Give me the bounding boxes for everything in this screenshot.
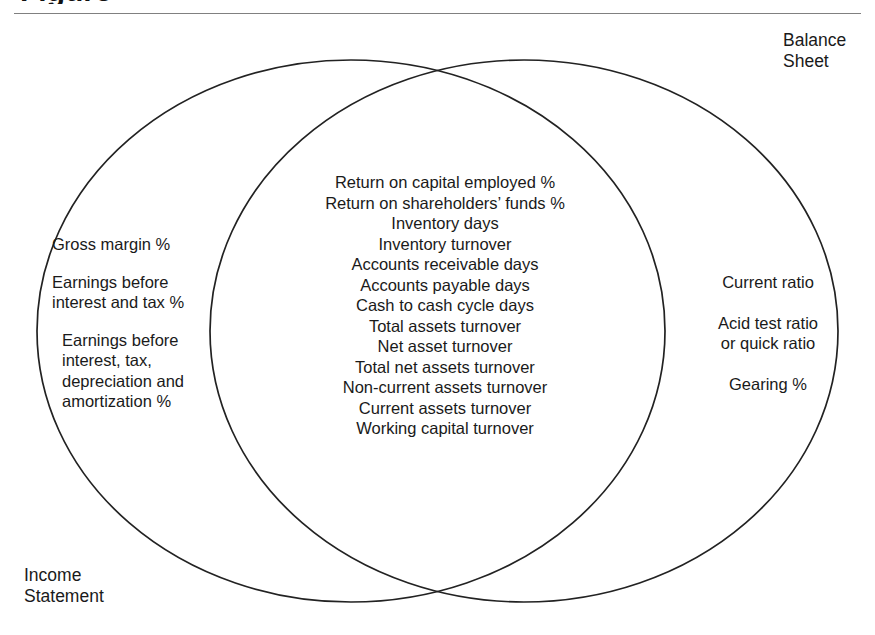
intersection-item-12: Working capital turnover <box>243 418 647 439</box>
intersection-item-8: Net asset turnover <box>243 336 647 357</box>
right-item-0: Current ratio <box>688 272 848 293</box>
intersection-item-2: Inventory days <box>243 213 647 234</box>
region-intersection: Return on capital employed % Return on s… <box>243 172 647 439</box>
right-item-1: Acid test ratio or quick ratio <box>688 313 848 354</box>
intersection-item-5: Accounts payable days <box>243 275 647 296</box>
intersection-item-3: Inventory turnover <box>243 234 647 255</box>
set-label-income-statement: Income Statement <box>24 565 104 607</box>
intersection-item-10: Non-current assets turnover <box>243 377 647 398</box>
intersection-item-7: Total assets turnover <box>243 316 647 337</box>
venn-diagram-page: Figure Balance Sheet Income Statement Gr… <box>0 0 875 635</box>
left-item-2: Earnings before interest, tax, depreciat… <box>52 330 217 412</box>
intersection-item-1: Return on shareholders’ funds % <box>243 193 647 214</box>
intersection-item-6: Cash to cash cycle days <box>243 295 647 316</box>
right-item-2: Gearing % <box>688 374 848 395</box>
intersection-item-4: Accounts receivable days <box>243 254 647 275</box>
left-item-1: Earnings before interest and tax % <box>52 272 217 313</box>
intersection-item-0: Return on capital employed % <box>243 172 647 193</box>
region-balance-sheet-only: Current ratio Acid test ratio or quick r… <box>688 272 848 394</box>
set-label-balance-sheet: Balance Sheet <box>783 30 846 72</box>
region-income-statement-only: Gross margin % Earnings before interest … <box>52 234 217 412</box>
intersection-item-11: Current assets turnover <box>243 398 647 419</box>
left-item-0: Gross margin % <box>52 234 217 255</box>
intersection-item-9: Total net assets turnover <box>243 357 647 378</box>
